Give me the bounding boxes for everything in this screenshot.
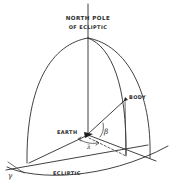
north-pole-label-line1: NORTH POLE (66, 15, 111, 21)
ecliptic-coordinates-diagram: NORTH POLE OF ECLIPTIC BODY EARTH ECLIPT… (0, 0, 179, 188)
north-pole-label-line2: OF ECLIPTIC (69, 24, 108, 30)
ecliptic-circle-arc (7, 146, 168, 175)
longitude-angle-label: λ (86, 143, 91, 150)
ecliptic-label: ECLIPTIC (53, 170, 81, 176)
body-label: BODY (129, 94, 146, 100)
latitude-angle-arc (100, 123, 103, 137)
sphere-left-meridian-arc (27, 38, 88, 163)
body-vertical-drop-line (125, 100, 126, 156)
earth-label: EARTH (57, 129, 78, 135)
earth-node-marker (84, 132, 93, 138)
body-arrow-head (124, 97, 128, 101)
ecliptic-plane-right-line (88, 135, 156, 161)
vernal-equinox-label: γ (8, 171, 13, 180)
latitude-angle-label: β (103, 127, 108, 136)
